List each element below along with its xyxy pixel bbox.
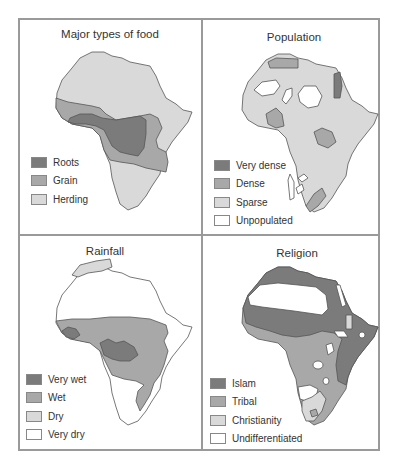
legend-item-christianity: Christianity — [210, 411, 302, 430]
legend-label: Undifferentiated — [232, 433, 302, 444]
legend-item-unpopulated: Unpopulated — [214, 212, 293, 231]
legend-label: Christianity — [232, 415, 281, 426]
wet-swatch — [26, 392, 42, 403]
legend-item-sparse: Sparse — [214, 193, 293, 212]
legend-item-tribal: Tribal — [210, 393, 302, 412]
religion-legend: Islam Tribal Christianity Undifferentiat… — [210, 374, 302, 448]
roots-swatch — [31, 157, 47, 168]
very-wet-swatch — [26, 374, 42, 385]
tribal-swatch — [210, 396, 226, 407]
legend-item-very-wet: Very wet — [26, 370, 86, 389]
food-title: Major types of food — [61, 28, 159, 40]
legend-label: Very dense — [236, 160, 286, 171]
very-dry-swatch — [26, 429, 42, 440]
legend-label: Herding — [53, 194, 88, 205]
legend-label: Very dry — [48, 429, 85, 440]
legend-label: Islam — [232, 378, 256, 389]
dense-swatch — [214, 178, 230, 189]
legend-item-dense: Dense — [214, 175, 293, 194]
food-legend: Roots Grain Herding — [31, 153, 88, 209]
population-title: Population — [267, 31, 321, 43]
legend-label: Dense — [236, 178, 265, 189]
religion-title: Religion — [276, 247, 318, 259]
undifferentiated-swatch — [210, 433, 226, 444]
legend-item-grain: Grain — [31, 172, 88, 191]
rainfall-legend: Very wet Wet Dry Very dry — [26, 370, 86, 444]
legend-item-roots: Roots — [31, 153, 88, 172]
legend-label: Dry — [48, 411, 64, 422]
population-legend: Very dense Dense Sparse Unpopulated — [214, 156, 293, 230]
islam-swatch — [210, 378, 226, 389]
legend-item-undifferentiated: Undifferentiated — [210, 430, 302, 449]
grain-swatch — [31, 175, 47, 186]
rainfall-title: Rainfall — [86, 245, 124, 257]
legend-label: Sparse — [236, 197, 268, 208]
legend-label: Tribal — [232, 396, 257, 407]
legend-label: Grain — [53, 175, 77, 186]
legend-item-very-dry: Very dry — [26, 426, 86, 445]
sparse-swatch — [214, 197, 230, 208]
very-dense-swatch — [214, 160, 230, 171]
herding-swatch — [31, 194, 47, 205]
legend-item-herding: Herding — [31, 190, 88, 209]
legend-label: Very wet — [48, 374, 86, 385]
legend-item-islam: Islam — [210, 374, 302, 393]
christianity-swatch — [210, 415, 226, 426]
dry-swatch — [26, 411, 42, 422]
legend-label: Roots — [53, 157, 79, 168]
legend-item-dry: Dry — [26, 407, 86, 426]
unpopulated-swatch — [214, 215, 230, 226]
legend-item-very-dense: Very dense — [214, 156, 293, 175]
legend-label: Unpopulated — [236, 215, 293, 226]
legend-label: Wet — [48, 392, 66, 403]
legend-item-wet: Wet — [26, 389, 86, 408]
